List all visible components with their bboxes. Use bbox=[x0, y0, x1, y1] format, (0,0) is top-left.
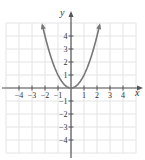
y-axis-label: y bbox=[59, 7, 65, 18]
y-tick-label: 4 bbox=[64, 32, 68, 41]
x-tick-label: −3 bbox=[28, 91, 37, 100]
parabola-graph: −4−3−2−112344321−1−2−3−4 x y bbox=[0, 0, 145, 160]
x-tick-label: −4 bbox=[15, 91, 24, 100]
y-axis-arrow-icon bbox=[69, 11, 74, 17]
x-tick-label: 1 bbox=[82, 91, 86, 100]
y-tick-label: 1 bbox=[64, 71, 68, 80]
y-tick-label: 3 bbox=[64, 45, 68, 54]
y-tick-label: 2 bbox=[64, 58, 68, 67]
x-tick-label: 4 bbox=[121, 91, 125, 100]
x-tick-label: −2 bbox=[41, 91, 50, 100]
y-tick-label: −1 bbox=[59, 97, 68, 106]
y-tick-label: −3 bbox=[59, 123, 68, 132]
x-tick-label: 2 bbox=[95, 91, 99, 100]
y-tick-label: −4 bbox=[59, 136, 68, 145]
chart-svg: −4−3−2−112344321−1−2−3−4 x y bbox=[0, 0, 145, 160]
y-tick-label: −2 bbox=[59, 110, 68, 119]
x-tick-label: 3 bbox=[108, 91, 112, 100]
axes bbox=[2, 11, 143, 158]
x-axis-label: x bbox=[134, 87, 140, 98]
